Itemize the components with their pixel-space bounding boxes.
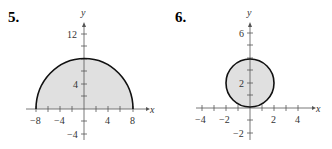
tick-label: 2 xyxy=(271,114,276,125)
tick-label: −8 xyxy=(30,115,41,126)
tick-label: 6 xyxy=(239,28,244,39)
problem-number: 6. xyxy=(175,9,187,25)
tick-label: −4 xyxy=(195,114,206,125)
tick-label: −2 xyxy=(233,128,244,139)
graph-6: 6. x y −4 −2 2 4 6 2 −2 xyxy=(175,7,321,140)
graph-5: 5. x y −8 −4 4 8 12 4 −4 xyxy=(8,7,155,140)
y-arrow-icon xyxy=(248,22,252,27)
tick-label: −2 xyxy=(219,114,230,125)
tick-label: 2 xyxy=(239,78,244,89)
tick-label: −4 xyxy=(54,115,65,126)
tick-label: 12 xyxy=(67,29,77,40)
y-label: y xyxy=(80,7,86,18)
tick-label: 4 xyxy=(73,79,78,90)
x-label: x xyxy=(315,103,321,114)
graphs: 5. x y −8 −4 4 8 12 4 −4 6. x y −4 −2 2 … xyxy=(0,0,332,149)
problem-number: 5. xyxy=(8,9,20,25)
tick-label: 4 xyxy=(295,114,300,125)
tick-label: 4 xyxy=(105,115,110,126)
tick-label: −4 xyxy=(67,129,78,140)
tick-label: 8 xyxy=(130,115,135,126)
y-arrow-icon xyxy=(82,22,86,27)
y-label: y xyxy=(246,7,252,18)
x-label: x xyxy=(149,104,155,115)
